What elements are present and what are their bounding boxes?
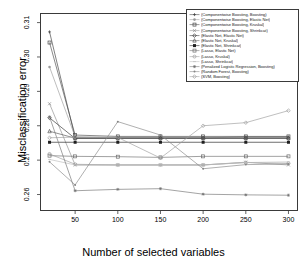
- x-tick-label: 250: [233, 216, 259, 223]
- chart-figure: Misclassification error Number of select…: [0, 0, 307, 269]
- chart-legend: (Componentwise Boosting, Boosting)(Compo…: [186, 9, 299, 82]
- x-tick-label: 150: [147, 216, 173, 223]
- legend-item: (SVM, Boosting): [188, 74, 297, 79]
- x-tick-label: 200: [190, 216, 216, 223]
- x-tick-label: 50: [62, 216, 88, 223]
- x-tick-label: 300: [275, 216, 301, 223]
- legend-label: (SVM, Boosting): [201, 74, 230, 79]
- legend-marker-icon: [188, 74, 201, 79]
- x-tick-label: 100: [105, 216, 131, 223]
